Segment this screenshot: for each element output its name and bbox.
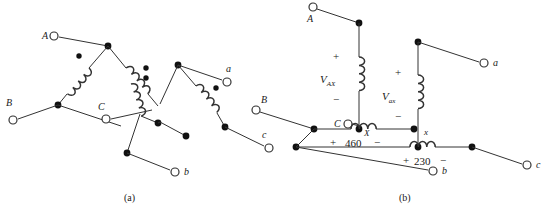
terminal-b-label: b (184, 166, 189, 177)
coil-230-winding (410, 141, 435, 147)
caption-b: (b) (399, 192, 411, 204)
lead-c-b (472, 147, 522, 164)
wire-apexright-to-cross (160, 65, 178, 104)
vax-label: VAX (320, 73, 336, 88)
v460-minus-sign: − (374, 136, 380, 148)
coil-Vax-winding (418, 75, 424, 109)
lead-A-b (317, 9, 359, 23)
vax2-subscript: ax (389, 97, 397, 105)
terminal-C-label: C (98, 101, 105, 112)
wire-apex1-coil2-top (108, 46, 126, 68)
terminal-b[interactable] (171, 168, 179, 176)
figure-container: A B C (0, 0, 548, 221)
terminal-b-b[interactable] (429, 167, 437, 175)
caption-a: (a) (124, 192, 135, 204)
node-460-to-ax (411, 126, 418, 133)
coil-3-winding (131, 82, 147, 116)
wire-cross-to-coil6 (160, 122, 186, 136)
wire-coil2-to-crossnode (148, 94, 158, 106)
terminal-A[interactable] (50, 32, 58, 40)
lead-A-to-apex1 (59, 37, 108, 46)
terminal-B-b[interactable] (252, 106, 260, 114)
wire-C-to-nodeb (127, 114, 140, 153)
mark-x-lower: x (423, 127, 428, 137)
terminal-B-b-label: B (261, 94, 267, 105)
circuit-diagram-svg: A B C (0, 0, 548, 221)
lead-B (18, 105, 58, 119)
terminal-B[interactable] (9, 116, 17, 124)
vax2-label: Vax (382, 90, 396, 105)
vax-subscript: AX (326, 80, 336, 88)
polarity-dot-3 (143, 75, 148, 80)
terminal-B-label: B (6, 97, 12, 108)
terminal-b-b-label: b (442, 165, 447, 176)
v230-plus-sign: + (403, 154, 409, 166)
terminal-a-label: a (226, 63, 231, 74)
lead-c (225, 127, 264, 146)
terminal-c-b[interactable] (523, 161, 531, 169)
v460-plus-sign: + (330, 136, 336, 148)
terminal-A-label: A (41, 30, 49, 41)
vax-plus-sign: + (333, 50, 339, 62)
wire-nodeB-to-coil3 (58, 105, 121, 126)
terminal-A-b-label: A (306, 13, 314, 24)
terminal-A-b[interactable] (309, 3, 317, 11)
v230-value: 230 (414, 155, 431, 167)
coil-1-winding (67, 68, 93, 97)
terminal-c-b-label: c (536, 159, 541, 170)
wire-apex1-coil1-top (89, 46, 108, 68)
vax2-plus-sign: + (395, 66, 401, 78)
panel-a-group: A B C (6, 30, 273, 204)
panel-b-group: A + VAX − C X B + 460 − (252, 3, 541, 204)
terminal-C-b-label: C (334, 118, 341, 129)
terminal-c[interactable] (265, 144, 273, 152)
terminal-c-label: c (262, 129, 267, 140)
terminal-a-b[interactable] (480, 59, 488, 67)
terminal-C[interactable] (102, 115, 110, 123)
coil-VAX-winding (359, 57, 365, 91)
vax2-minus-sign: − (395, 110, 401, 122)
lead-a-b (418, 42, 479, 62)
lead-b (127, 153, 170, 170)
mark-X-upper: X (363, 128, 370, 138)
lead-B-b (260, 112, 314, 129)
vax-minus-sign: − (333, 93, 339, 105)
polarity-dot-1 (76, 53, 81, 58)
terminal-a[interactable] (223, 78, 231, 86)
polarity-dot-2 (143, 65, 148, 70)
wire-Bnode-to-230left (296, 129, 314, 147)
polarity-dot-5 (213, 85, 218, 90)
terminal-a-b-label: a (493, 57, 498, 68)
node-right-delta-bottom-left (183, 133, 190, 140)
